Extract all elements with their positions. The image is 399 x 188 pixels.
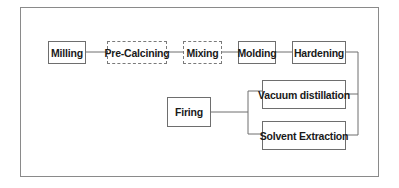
node-label: Solvent Extraction [260,130,349,142]
node-pre-calcining: Pre-Calcining [107,41,167,64]
node-vacuum-distillation: Vacuum distillation [262,80,346,109]
node-label: Milling [51,47,83,59]
node-label: Firing [175,106,203,118]
node-firing: Firing [167,97,211,127]
node-solvent-extraction: Solvent Extraction [262,121,346,150]
node-label: Hardening [294,47,344,59]
node-hardening: Hardening [292,41,346,64]
node-label: Vacuum distillation [258,89,350,101]
node-label: Mixing [186,47,218,59]
node-milling: Milling [48,41,86,64]
node-molding: Molding [238,41,276,64]
node-label: Molding [238,47,277,59]
node-label: Pre-Calcining [104,47,169,59]
node-mixing: Mixing [183,41,222,64]
